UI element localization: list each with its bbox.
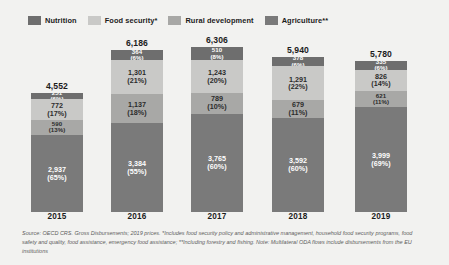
bar-segment-agriculture-[interactable]: 2,937(65%) [31, 135, 83, 212]
bar-segment-agriculture-[interactable]: 3,592(60%) [272, 118, 324, 212]
segment-percent-label: (11%) [288, 109, 307, 117]
bar-segment-food-security-[interactable]: 1,291(22%) [272, 66, 324, 100]
legend-item-label: Nutrition [45, 16, 77, 25]
segment-percent-label: (60%) [288, 165, 307, 173]
x-axis-label-2017: 2017 [187, 212, 247, 221]
bar-stack: 510(8%)1,243(20%)789(10%)3,765(60%) [191, 47, 243, 212]
x-axis-label-2016: 2016 [107, 212, 167, 221]
legend-item-label: Food security* [105, 16, 158, 25]
segment-percent-label: (11%) [373, 99, 389, 105]
bar-stack: 378(6%)1,291(22%)679(11%)3,592(60%) [272, 57, 324, 212]
x-axis-label-2015: 2015 [27, 212, 87, 221]
bar-segment-nutrition[interactable]: 378(6%) [272, 57, 324, 67]
legend-item-label: Agriculture** [282, 16, 328, 25]
segment-percent-label: (21%) [127, 77, 146, 85]
x-axis-label-2018: 2018 [268, 212, 328, 221]
bar-segment-food-security-[interactable]: 772(17%) [31, 99, 83, 119]
legend-swatch-icon [168, 16, 181, 25]
legend-swatch-icon [28, 16, 41, 25]
legend-item-3[interactable]: Agriculture** [265, 16, 328, 25]
segment-percent-label: (65%) [47, 174, 66, 182]
legend-swatch-icon [88, 16, 101, 25]
bar-segment-food-security-[interactable]: 1,243(20%) [191, 60, 243, 93]
x-axis-label-2019: 2019 [351, 212, 411, 221]
segment-percent-label: (69%) [371, 160, 390, 168]
legend-item-2[interactable]: Rural development [168, 16, 253, 25]
legend-item-1[interactable]: Food security* [88, 16, 158, 25]
bar-segment-food-security-[interactable]: 1,301(21%) [111, 60, 163, 94]
bar-total-label: 6,186 [126, 38, 148, 48]
bar-group-2017[interactable]: 6,306510(8%)1,243(20%)789(10%)3,765(60%) [191, 35, 243, 212]
segment-percent-label: (55%) [127, 168, 146, 176]
bar-group-2015[interactable]: 4,552251(6%)772(17%)590(13%)2,937(65%) [31, 81, 83, 212]
segment-percent-label: (14%) [371, 80, 390, 88]
segment-percent-label: (60%) [207, 163, 226, 171]
chart-legend: NutritionFood security*Rural development… [28, 16, 328, 25]
bar-segment-rural-development[interactable]: 1,137(18%) [111, 94, 163, 124]
bar-segment-rural-development[interactable]: 590(13%) [31, 120, 83, 135]
bar-segment-agriculture-[interactable]: 3,765(60%) [191, 114, 243, 213]
legend-swatch-icon [265, 16, 278, 25]
segment-percent-label: (13%) [49, 127, 66, 133]
legend-item-label: Rural development [185, 16, 253, 25]
bar-total-label: 5,940 [287, 45, 309, 55]
bar-stack: 251(6%)772(17%)590(13%)2,937(65%) [31, 93, 83, 212]
bar-stack: 364(6%)1,301(21%)1,137(18%)3,384(55%) [111, 50, 163, 212]
segment-percent-label: (22%) [288, 83, 307, 91]
bar-segment-nutrition[interactable]: 335(6%) [355, 61, 407, 70]
bar-total-label: 5,780 [370, 49, 392, 59]
bar-total-label: 6,306 [206, 35, 228, 45]
bar-total-label: 4,552 [46, 81, 68, 91]
legend-item-0[interactable]: Nutrition [28, 16, 77, 25]
bar-group-2018[interactable]: 5,940378(6%)1,291(22%)679(11%)3,592(60%) [272, 45, 324, 212]
bar-segment-agriculture-[interactable]: 3,384(55%) [111, 123, 163, 212]
bar-stack: 335(6%)826(14%)621(11%)3,999(69%) [355, 61, 407, 212]
chart-plot-area: 4,552251(6%)772(17%)590(13%)2,937(65%)6,… [0, 34, 449, 212]
bar-group-2016[interactable]: 6,186364(6%)1,301(21%)1,137(18%)3,384(55… [111, 38, 163, 212]
segment-percent-label: (8%) [210, 54, 223, 60]
segment-percent-label: (18%) [127, 109, 146, 117]
bar-segment-nutrition[interactable]: 364(6%) [111, 50, 163, 60]
bar-segment-food-security-[interactable]: 826(14%) [355, 70, 407, 92]
segment-percent-label: (10%) [207, 103, 226, 111]
bar-group-2019[interactable]: 5,780335(6%)826(14%)621(11%)3,999(69%) [355, 49, 407, 212]
chart-footnote: Source: OECD CRS. Gross Disbursements; 2… [22, 229, 428, 256]
bar-segment-rural-development[interactable]: 679(11%) [272, 100, 324, 118]
bar-segment-rural-development[interactable]: 789(10%) [191, 93, 243, 114]
chart-card: NutritionFood security*Rural development… [0, 0, 449, 265]
segment-percent-label: (20%) [207, 77, 226, 85]
bar-segment-rural-development[interactable]: 621(11%) [355, 91, 407, 107]
segment-percent-label: (17%) [47, 110, 66, 118]
bar-segment-agriculture-[interactable]: 3,999(69%) [355, 107, 407, 212]
bar-segment-nutrition[interactable]: 510(8%) [191, 47, 243, 60]
chart-x-axis: 20152016201720182019 [0, 212, 449, 226]
